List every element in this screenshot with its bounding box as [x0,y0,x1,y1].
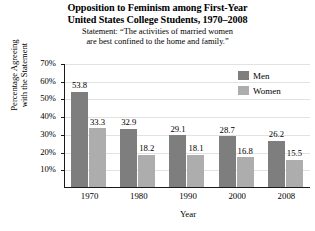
chart-legend: Men Women [238,69,312,99]
legend-item-men: Men [238,69,312,82]
bar-women-2008 [286,160,303,187]
legend-swatch-men-icon [238,71,249,80]
x-axis-tick-label: 1980 [114,191,163,201]
legend-swatch-women-icon [238,86,249,95]
y-axis-tick-label: 60% [16,76,56,86]
bar-group: 53.833.3 [65,63,114,187]
bar-value-label: 16.8 [232,147,259,156]
y-axis-tick-label: 30% [16,129,56,139]
y-axis-tick-label: 70% [16,58,56,68]
bar-value-label: 15.5 [281,149,308,158]
y-axis-tick-label: 50% [16,93,56,103]
x-axis-tick-label: 1990 [163,191,212,201]
legend-item-women: Women [238,84,312,97]
subtitle-line-1: Statement: “The activities of married wo… [0,27,315,37]
y-axis-tick-label: 10% [16,164,56,174]
bar-value-label: 18.2 [133,144,160,153]
bar-women-2000 [237,157,254,187]
chart-figure: Opposition to Feminism among First-Year … [0,0,315,231]
bar-value-label: 28.7 [214,126,241,135]
bar-value-label: 26.2 [263,130,290,139]
chart-title: Opposition to Feminism among First-Year … [0,2,315,26]
bar-group: 32.918.2 [114,63,163,187]
bar-men-2000 [219,136,236,187]
bar-men-2008 [268,141,285,187]
x-axis-tick-label: 2008 [262,191,311,201]
bar-value-label: 18.1 [182,144,209,153]
x-axis-title: Year [64,209,312,219]
title-line-2: United States College Students, 1970–200… [0,14,315,26]
chart-subtitle: Statement: “The activities of married wo… [0,27,315,48]
subtitle-line-2: are best confined to the home and family… [0,37,315,47]
x-axis-tick-label: 2000 [213,191,262,201]
bar-men-1970 [71,92,88,187]
bar-group: 29.118.1 [163,63,212,187]
bar-value-label: 32.9 [115,118,142,127]
legend-label-women: Women [253,86,281,96]
bar-men-1980 [120,129,137,187]
bar-women-1990 [187,155,204,187]
y-axis-tick-label: 20% [16,147,56,157]
bar-women-1970 [89,128,106,187]
bar-value-label: 33.3 [84,118,111,127]
bar-women-1980 [138,155,155,187]
legend-label-men: Men [253,71,270,81]
bar-men-1990 [169,135,186,187]
x-axis-tick-label: 1970 [65,191,114,201]
bar-value-label: 53.8 [66,81,93,90]
y-axis-tick-label: 40% [16,111,56,121]
title-line-1: Opposition to Feminism among First-Year [0,2,315,14]
bar-value-label: 29.1 [164,125,191,134]
